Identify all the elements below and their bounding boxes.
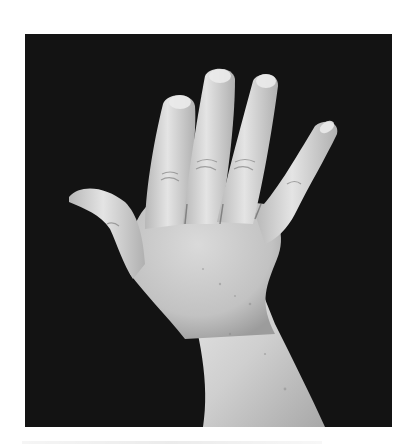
scan-artifact	[22, 441, 322, 444]
hand-photograph	[25, 34, 392, 427]
hand-illustration	[25, 34, 392, 427]
